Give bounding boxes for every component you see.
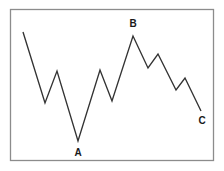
chart-border [11,10,214,161]
wave-pattern-figure: B A C [0,0,224,171]
point-label-c: C [198,115,205,126]
chart-canvas: B A C [0,0,224,171]
point-label-a: A [74,147,81,158]
point-label-b: B [129,18,136,29]
